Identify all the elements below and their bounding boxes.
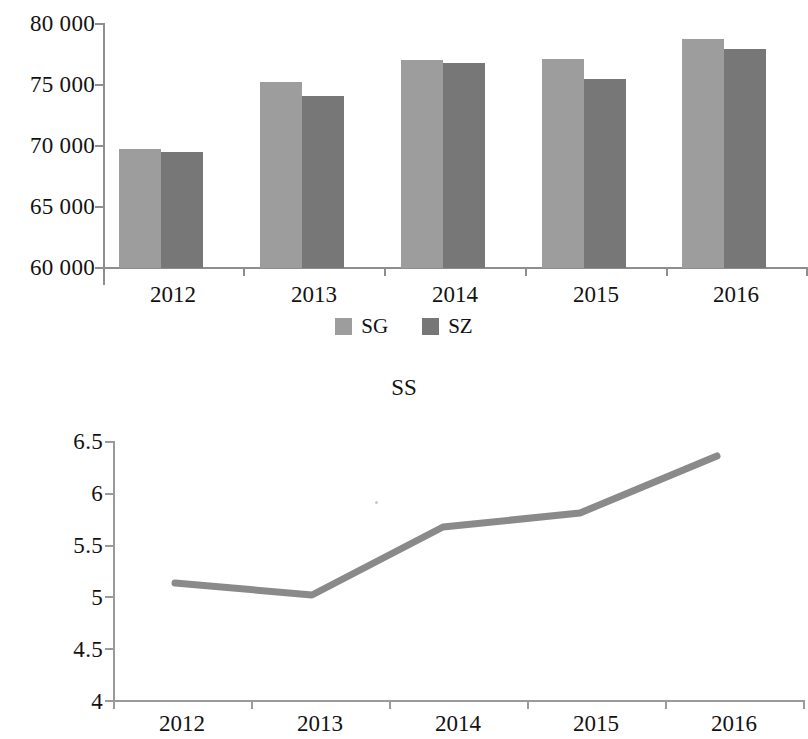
line-chart: SS 6.5 6 5.5 5 4.5 4 2012 2013 2014 2015 (0, 366, 808, 739)
line-xtick-label-0: 2012 (122, 712, 242, 735)
bar-ytick-label-4: 60 000 (0, 256, 95, 279)
legend-label-sz: SZ (448, 316, 473, 337)
bar-sg-2015 (542, 59, 584, 268)
bar-plot-area (104, 23, 808, 268)
bar-ytick-label-1: 75 000 (0, 73, 95, 96)
bar-xtick-label-1: 2013 (254, 283, 374, 306)
bar-ytick-mark-2 (95, 145, 104, 147)
bar-ytick-mark-0 (95, 23, 104, 25)
bar-sz-2012 (161, 152, 203, 268)
line-xtick-label-1: 2013 (260, 712, 380, 735)
legend-swatch-sz-icon (422, 318, 439, 335)
line-series-svg (0, 366, 808, 739)
bar-sz-2016 (724, 49, 766, 268)
legend-item-sg: SG (335, 316, 388, 337)
bar-xtick-label-0: 2012 (113, 283, 233, 306)
bar-xtick-label-2: 2014 (395, 283, 515, 306)
figure-container: 80 000 75 000 70 000 65 000 60 000 (0, 0, 808, 739)
bar-sg-2012 (119, 149, 161, 268)
bar-xtick-mark-3 (525, 267, 527, 276)
line-xtick-label-3: 2015 (536, 712, 656, 735)
line-series-ss (175, 456, 717, 595)
bar-sz-2014 (443, 63, 485, 268)
bar-sz-2015 (584, 79, 626, 268)
bar-ytick-mark-1 (95, 84, 104, 86)
bar-ytick-label-3: 65 000 (0, 195, 95, 218)
legend-swatch-sg-icon (335, 318, 352, 335)
bar-sg-2013 (260, 82, 302, 268)
bar-ytick-label-0: 80 000 (0, 12, 95, 35)
line-xtick-label-4: 2016 (674, 712, 794, 735)
bar-ytick-mark-3 (95, 206, 104, 208)
bar-xtick-mark-2 (384, 267, 386, 276)
bar-sz-2013 (302, 96, 344, 268)
bar-xtick-mark-0 (103, 267, 105, 276)
bar-xtick-label-4: 2016 (676, 283, 796, 306)
bar-sg-2016 (682, 39, 724, 268)
legend-label-sg: SG (361, 316, 388, 337)
bar-chart-legend: SG SZ (0, 316, 808, 337)
bar-ytick-label-2: 70 000 (0, 134, 95, 157)
bar-xtick-mark-4 (666, 267, 668, 276)
bar-sg-2014 (401, 60, 443, 268)
bar-xtick-label-3: 2015 (536, 283, 656, 306)
bar-chart: 80 000 75 000 70 000 65 000 60 000 (0, 0, 808, 350)
bar-xtick-mark-1 (243, 267, 245, 276)
line-xtick-label-2: 2014 (398, 712, 518, 735)
legend-item-sz: SZ (422, 316, 473, 337)
